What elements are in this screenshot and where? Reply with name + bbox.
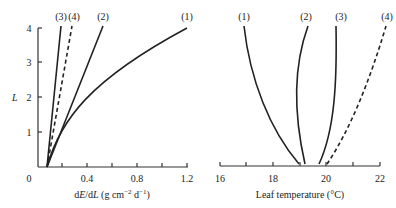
series-3-curve [319, 26, 336, 164]
x-tick-20: 20 [321, 173, 331, 184]
y-tick-4: 4 [27, 23, 32, 34]
x-tick-22: 22 [375, 173, 385, 184]
x-tick-0.8: 0.8 [131, 173, 144, 184]
x-tick-1.2: 1.2 [181, 173, 194, 184]
series-1-label: (1) [181, 11, 193, 23]
series-2-curve [47, 26, 103, 167]
x-tick-0: 0 [27, 173, 32, 184]
series-1-curve [244, 26, 299, 164]
x-tick-16: 16 [215, 173, 225, 184]
series-4-label: (4) [68, 11, 80, 23]
x-axis-label: Leaf temperature (°C) [256, 189, 344, 201]
x-axis-label: dE/dL (g cm−2 d−1) [74, 188, 150, 201]
series-2-curve [297, 26, 308, 164]
series-3-label: (3) [55, 11, 67, 23]
y-tick-3: 3 [27, 57, 32, 68]
y-tick-1: 1 [27, 127, 32, 138]
series-1-label: (1) [238, 11, 250, 23]
series-3-label: (3) [335, 11, 347, 23]
figure: 4 3 2 1 L 0 0.4 0.8 1.2 dE/dL (g cm−2 d−… [0, 0, 396, 208]
series-2-label: (2) [97, 11, 109, 23]
right-chart: 16 18 20 22 Leaf temperature (°C) (1) (2… [215, 11, 393, 201]
y-axis-label: L [11, 92, 18, 103]
series-4-label: (4) [381, 11, 393, 23]
left-chart: 4 3 2 1 L 0 0.4 0.8 1.2 dE/dL (g cm−2 d−… [11, 11, 193, 201]
x-tick-18: 18 [268, 173, 278, 184]
series-2-label: (2) [300, 11, 312, 23]
x-tick-0.4: 0.4 [81, 173, 94, 184]
y-tick-2: 2 [27, 92, 32, 103]
